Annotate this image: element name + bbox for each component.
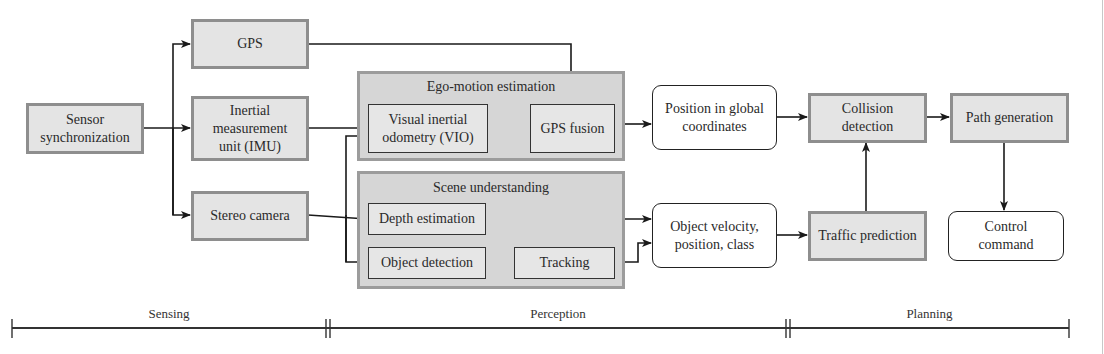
phase-label-perception: Perception xyxy=(330,306,786,322)
path-generation-node: Path generation xyxy=(950,93,1069,143)
gps-node: GPS xyxy=(191,19,309,69)
page-edge-divider xyxy=(1102,0,1103,354)
gps-fusion-node: GPS fusion xyxy=(530,104,615,153)
traffic-prediction-node: Traffic prediction xyxy=(808,211,927,261)
collision-detection-node: Collision detection xyxy=(808,93,927,143)
control-command-node: Control command xyxy=(948,211,1064,261)
visual-inertial-odometry-node: Visual inertial odometry (VIO) xyxy=(368,104,488,153)
depth-estimation-node: Depth estimation xyxy=(368,203,486,235)
ego-motion-estimation-title: Ego-motion estimation xyxy=(360,79,622,95)
phase-label-sensing: Sensing xyxy=(12,306,326,322)
object-velocity-position-class-node: Object velocity, position, class xyxy=(652,203,777,268)
phase-label-planning: Planning xyxy=(790,306,1069,322)
stereo-camera-node: Stereo camera xyxy=(191,191,309,241)
imu-node: Inertial measurement unit (IMU) xyxy=(191,96,309,161)
position-global-coordinates-node: Position in global coordinates xyxy=(652,85,777,150)
scene-understanding-title: Scene understanding xyxy=(360,180,622,196)
object-detection-node: Object detection xyxy=(368,247,486,279)
sensor-synchronization-node: Sensor synchronization xyxy=(26,103,144,154)
tracking-node: Tracking xyxy=(514,247,615,279)
